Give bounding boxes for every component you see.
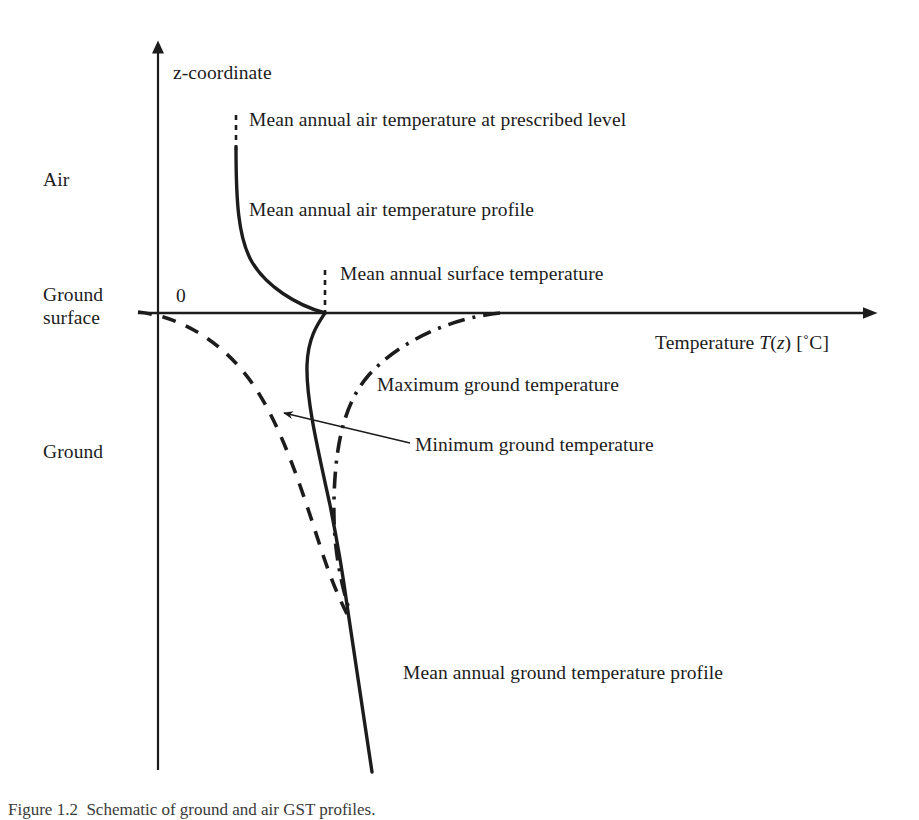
annotation-air-temp-prescribed: Mean annual air temperature at prescribe… — [249, 108, 626, 131]
x-axis-label: Temperature T(z) [˚C] — [655, 331, 829, 354]
x-axis-label-var-z: z — [777, 332, 785, 353]
y-axis-label: z-coordinate — [173, 61, 272, 84]
annotation-ground-temp-profile: Mean annual ground temperature profile — [403, 661, 723, 684]
curve-maximum-ground-temperature — [334, 313, 500, 606]
annotation-air-temp-profile: Mean annual air temperature profile — [249, 198, 534, 221]
curve-minimum-ground-temperature — [138, 312, 347, 614]
region-label-ground-surface: Groundsurface — [43, 283, 103, 329]
ground-surface-line1: Ground — [43, 284, 103, 305]
figure-caption: Figure 1.2 Schematic of ground and air G… — [8, 800, 375, 820]
x-axis-label-paren-open: ( — [770, 332, 777, 353]
region-label-ground: Ground — [43, 440, 103, 463]
region-label-air: Air — [43, 168, 69, 191]
origin-tick-label: 0 — [176, 284, 186, 307]
x-axis-label-var-t: T — [759, 332, 770, 353]
ground-surface-line2: surface — [43, 307, 100, 328]
annotation-max-ground-temp: Maximum ground temperature — [377, 373, 619, 396]
x-axis-label-prefix: Temperature — [655, 332, 759, 353]
x-axis-label-units: [˚C] — [791, 332, 829, 353]
annotation-min-ground-temp: Minimum ground temperature — [415, 433, 654, 456]
curve-air-temperature-profile — [236, 147, 325, 313]
annotation-surface-temp: Mean annual surface temperature — [340, 262, 604, 285]
